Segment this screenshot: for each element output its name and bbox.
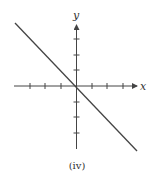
y-axis-label: y xyxy=(72,9,80,22)
x-axis-label: x xyxy=(140,80,147,93)
figure-caption: (iv) xyxy=(69,160,86,171)
coordinate-plot: x y (iv) xyxy=(0,0,151,180)
